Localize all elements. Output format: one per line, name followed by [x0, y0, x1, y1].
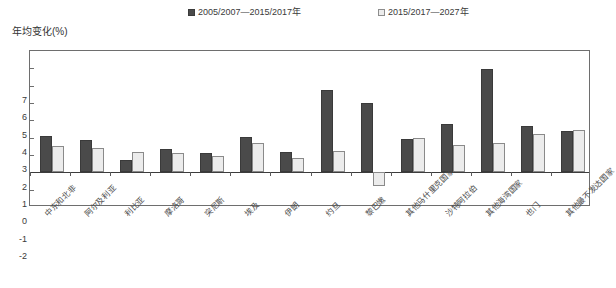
bar [333, 151, 345, 173]
bar [132, 152, 144, 172]
bar [52, 146, 64, 172]
bar [212, 156, 224, 172]
x-axis-tick [311, 172, 312, 176]
bar [252, 143, 264, 172]
bar [361, 103, 373, 172]
legend-label-series-2: 2015/2017—2027年 [388, 7, 469, 17]
bar [200, 153, 212, 172]
y-axis-tick [30, 138, 34, 139]
x-axis-tick [431, 172, 432, 176]
x-axis-tick [70, 172, 71, 176]
x-axis-tick [150, 172, 151, 176]
legend-item-series-2: 2015/2017—2027年 [378, 7, 469, 17]
bar [80, 140, 92, 172]
bar [280, 152, 292, 173]
legend-item-series-1: 2005/2007—2015/2017年 [188, 7, 301, 17]
bar [573, 130, 585, 172]
bar [240, 137, 252, 173]
x-axis-tick [190, 172, 191, 176]
x-axis-category-labels: 中东和北非阿尔及利亚利比亚摩洛哥突尼斯埃及伊朗约旦黎巴嫩其他马什里克国家沙特阿拉… [0, 206, 601, 288]
y-axis-tick [30, 155, 34, 156]
y-tick-label: 5 [22, 131, 27, 140]
legend-label-series-1: 2005/2007—2015/2017年 [198, 7, 301, 17]
y-tick-label: 7 [22, 96, 27, 105]
bar [172, 153, 184, 172]
y-axis-title: 年均变化(%) [12, 26, 68, 38]
bar [441, 124, 453, 173]
y-tick-label: 3 [22, 165, 27, 174]
bar [160, 149, 172, 172]
plot-inner [30, 51, 589, 205]
bar [413, 138, 425, 173]
y-tick-label: 2 [22, 183, 27, 192]
x-axis-tick [30, 172, 31, 176]
bar [481, 69, 493, 172]
bar [453, 145, 465, 172]
y-axis-tick [30, 68, 34, 69]
light-square-swatch-icon [378, 9, 385, 16]
x-axis-tick [110, 172, 111, 176]
bar [533, 134, 545, 172]
x-axis-tick [391, 172, 392, 176]
bar [401, 139, 413, 172]
bar [561, 131, 573, 173]
x-axis-tick [351, 172, 352, 176]
y-tick-label: 6 [22, 113, 27, 122]
x-axis-tick [471, 172, 472, 176]
x-axis-tick [551, 172, 552, 176]
bar [493, 143, 505, 172]
y-axis-tick [30, 190, 34, 191]
bar [92, 148, 104, 172]
zero-baseline [30, 172, 589, 173]
bar [120, 160, 132, 172]
dark-square-swatch-icon [188, 9, 195, 16]
bar [521, 126, 533, 173]
y-axis-tick [30, 86, 34, 87]
chart-legend: 2005/2007—2015/2017年 2015/2017—2027年 [0, 4, 601, 22]
y-axis-tick-labels: 76543210-1-2 [12, 50, 27, 206]
x-axis-tick [270, 172, 271, 176]
bar [321, 90, 333, 172]
y-axis-tick [30, 103, 34, 104]
bar [292, 158, 304, 172]
y-axis-tick [30, 120, 34, 121]
bar [40, 136, 52, 172]
x-axis-tick [230, 172, 231, 176]
plot-area [29, 50, 590, 206]
y-tick-label: 4 [22, 148, 27, 157]
x-axis-tick [511, 172, 512, 176]
bar [373, 172, 385, 186]
